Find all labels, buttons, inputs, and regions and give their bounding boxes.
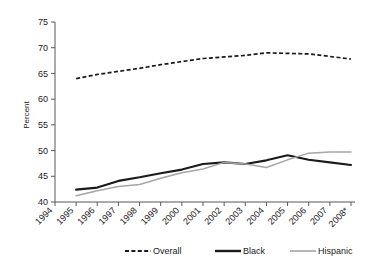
chart-legend: OverallBlackHispanic xyxy=(125,246,353,256)
x-tick-label: 2003 xyxy=(223,205,244,226)
x-tick-label: 2000 xyxy=(160,205,181,226)
x-tick-label: 2008* xyxy=(327,205,351,229)
x-tick-label: 2004 xyxy=(245,205,266,226)
x-tick-label: 1997 xyxy=(97,205,118,226)
x-tick-label: 2001 xyxy=(181,205,202,226)
x-axis-tick-group: 1994199519961997199819992000200120022003… xyxy=(33,202,351,229)
legend-item-black: Black xyxy=(215,246,266,256)
x-tick-label: 1998 xyxy=(118,205,139,226)
series-line-hispanic xyxy=(76,152,351,196)
legend-label-black: Black xyxy=(243,246,266,256)
x-tick-label: 1999 xyxy=(139,205,160,226)
y-tick-label: 75 xyxy=(38,17,48,27)
x-tick-label: 1995 xyxy=(54,205,75,226)
x-tick-label: 1994 xyxy=(33,205,54,226)
y-axis-title-group: Percent xyxy=(22,100,31,128)
series-line-overall xyxy=(76,53,351,79)
chart-container: Percent 4045505560657075 199419951996199… xyxy=(0,0,389,273)
y-tick-label: 60 xyxy=(38,94,48,104)
y-tick-label: 50 xyxy=(38,146,48,156)
y-tick-label: 45 xyxy=(38,171,48,181)
y-axis-title: Percent xyxy=(22,100,31,128)
legend-label-hispanic: Hispanic xyxy=(318,246,353,256)
x-tick-label: 2005 xyxy=(266,205,287,226)
x-tick-label: 1996 xyxy=(75,205,96,226)
y-tick-label: 65 xyxy=(38,69,48,79)
series-line-black xyxy=(76,155,351,189)
y-tick-label: 55 xyxy=(38,120,48,130)
x-tick-label: 2007 xyxy=(308,205,329,226)
legend-item-hispanic: Hispanic xyxy=(290,246,353,256)
x-tick-label: 2002 xyxy=(202,205,223,226)
line-chart: Percent 4045505560657075 199419951996199… xyxy=(0,0,389,273)
y-tick-label: 70 xyxy=(38,43,48,53)
legend-label-overall: Overall xyxy=(153,246,182,256)
series-layer xyxy=(76,53,351,196)
x-tick-label: 2006 xyxy=(287,205,308,226)
legend-item-overall: Overall xyxy=(125,246,182,256)
y-axis-tick-group: 4045505560657075 xyxy=(38,17,55,207)
